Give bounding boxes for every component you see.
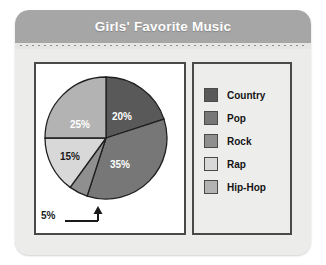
legend-item-label: Rock bbox=[227, 136, 251, 147]
divider-dots bbox=[18, 44, 308, 47]
legend-swatch-icon bbox=[204, 157, 218, 171]
legend-item-pop[interactable]: Pop bbox=[204, 111, 284, 125]
pie-svg: 20%35%25%15% bbox=[44, 76, 168, 200]
legend-item-rock[interactable]: Rock bbox=[204, 134, 284, 148]
legend-item-rap[interactable]: Rap bbox=[204, 157, 284, 171]
rock-callout: 5% bbox=[39, 206, 179, 228]
legend-item-label: Hip-Hop bbox=[227, 182, 266, 193]
pie-slice-hip-hop[interactable] bbox=[45, 77, 106, 138]
screenshot-root: Girls' Favorite Music 20%35%25%15% 5% bbox=[0, 0, 326, 265]
legend-swatch-icon bbox=[204, 180, 218, 194]
legend-swatch-icon bbox=[204, 111, 218, 125]
dotted-divider bbox=[15, 43, 311, 49]
legend-item-hip-hop[interactable]: Hip-Hop bbox=[204, 180, 284, 194]
legend-item-label: Rap bbox=[227, 159, 246, 170]
card-header: Girls' Favorite Music bbox=[15, 10, 311, 43]
legend-swatch-icon bbox=[204, 134, 218, 148]
callout-leader-line bbox=[39, 206, 179, 228]
legend-panel: CountryPopRockRapHip-Hop bbox=[192, 62, 292, 235]
legend-item-label: Pop bbox=[227, 113, 246, 124]
page-title: Girls' Favorite Music bbox=[95, 19, 231, 34]
legend-item-country[interactable]: Country bbox=[204, 88, 284, 102]
legend-list: CountryPopRockRapHip-Hop bbox=[204, 88, 284, 194]
legend-swatch-icon bbox=[204, 88, 218, 102]
pie-chart-panel: 20%35%25%15% 5% bbox=[34, 62, 186, 235]
legend-item-label: Country bbox=[227, 90, 265, 101]
pie-chart: 20%35%25%15% bbox=[44, 76, 168, 200]
chart-card: Girls' Favorite Music 20%35%25%15% 5% bbox=[15, 10, 311, 255]
